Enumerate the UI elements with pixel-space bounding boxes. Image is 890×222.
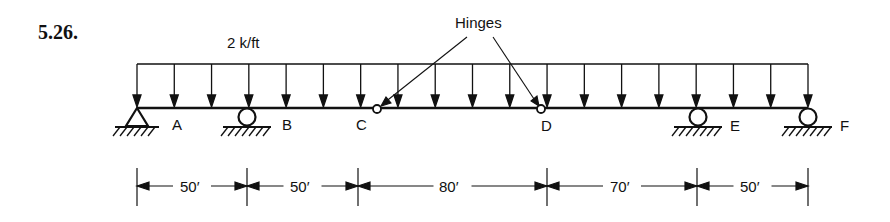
ground-hatch <box>235 127 242 136</box>
load-arrowhead-icon <box>729 95 737 107</box>
ground-hatch <box>796 127 803 136</box>
beam-diagram: 5.26. 2 k/ft Hinges A B C D E F 50′ 50′ … <box>0 0 890 222</box>
roller-support-icon <box>800 109 817 126</box>
ground-hatch <box>263 127 270 136</box>
ground-hatch <box>242 127 249 136</box>
ground-hatch <box>672 127 679 136</box>
dimension-lines <box>137 168 808 206</box>
label-e: E <box>730 117 740 134</box>
hinges-label: Hinges <box>455 14 502 31</box>
label-a: A <box>172 116 182 133</box>
supports <box>113 105 832 136</box>
roller-support-icon <box>239 109 256 126</box>
ground-hatch <box>789 127 796 136</box>
ground-hatch <box>686 127 693 136</box>
load-arrowhead-icon <box>245 95 253 107</box>
ground-hatch <box>782 127 789 136</box>
dimension-arrow-right-icon <box>796 182 808 190</box>
load-arrowhead-icon <box>282 95 290 107</box>
ground-hatch <box>256 127 263 136</box>
load-arrowhead-icon <box>618 95 626 107</box>
dim-label-de: 70′ <box>610 178 630 195</box>
hinge-icon <box>373 105 381 113</box>
ground-hatch <box>810 127 817 136</box>
dim-label-ef: 50′ <box>740 178 760 195</box>
ground-hatch <box>707 127 714 136</box>
dimension-arrow-left-icon <box>247 182 259 190</box>
roller-support-icon <box>690 109 707 126</box>
ground-hatch <box>249 127 256 136</box>
load-arrowhead-icon <box>543 95 551 107</box>
dim-label-cd: 80′ <box>439 178 459 195</box>
ground-hatch <box>127 127 134 136</box>
ground-hatch <box>141 127 148 136</box>
ground-hatch <box>113 127 120 136</box>
label-b: B <box>282 116 292 133</box>
load-arrowhead-icon <box>133 95 141 107</box>
ground-hatch <box>803 127 810 136</box>
load-arrowhead-icon <box>804 95 812 107</box>
dimension-arrow-left-icon <box>137 182 149 190</box>
load-arrowhead-icon <box>170 95 178 107</box>
label-c: C <box>356 116 367 133</box>
ground-hatch <box>221 127 228 136</box>
load-arrowhead-icon <box>506 95 514 107</box>
ground-hatch <box>120 127 127 136</box>
load-arrowhead-icon <box>692 95 700 107</box>
load-arrowhead-icon <box>431 95 439 107</box>
ground-hatch <box>700 127 707 136</box>
load-arrowhead-icon <box>655 95 663 107</box>
load-arrowhead-icon <box>394 95 402 107</box>
load-arrowhead-icon <box>767 95 775 107</box>
load-arrowhead-icon <box>319 95 327 107</box>
ground-hatch <box>693 127 700 136</box>
label-d: D <box>541 117 552 134</box>
label-f: F <box>840 117 849 134</box>
dim-label-ab: 50′ <box>180 178 200 195</box>
problem-number: 5.26. <box>38 21 78 43</box>
load-arrowhead-icon <box>357 95 365 107</box>
ground-hatch <box>679 127 686 136</box>
pin-support-icon <box>126 108 148 126</box>
ground-hatch <box>148 127 155 136</box>
ground-hatch <box>134 127 141 136</box>
dimension-arrow-left-icon <box>358 182 370 190</box>
leader-arrowhead-d <box>531 96 539 106</box>
dimension-arrow-left-icon <box>547 182 559 190</box>
load-arrowhead-icon <box>469 95 477 107</box>
hinge-leader-lines <box>381 37 539 106</box>
point-labels: A B C D E F <box>172 116 849 134</box>
load-arrowhead-icon <box>208 95 216 107</box>
ground-hatch <box>817 127 824 136</box>
ground-hatch <box>824 127 831 136</box>
load-arrowhead-icon <box>580 95 588 107</box>
dim-label-bc: 50′ <box>290 178 310 195</box>
load-label: 2 k/ft <box>227 34 260 51</box>
distributed-load <box>133 64 812 107</box>
ground-hatch <box>228 127 235 136</box>
ground-hatch <box>714 127 721 136</box>
dimension-arrow-left-icon <box>697 182 709 190</box>
hinge-icon <box>537 105 545 113</box>
